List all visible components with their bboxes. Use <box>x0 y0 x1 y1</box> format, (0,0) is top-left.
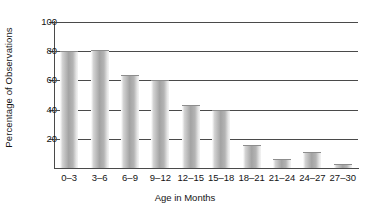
gridline <box>54 22 358 23</box>
bar <box>273 159 291 168</box>
x-axis-title: Age in Months <box>0 192 370 203</box>
bar <box>60 51 78 168</box>
bar <box>243 145 261 168</box>
bar-chart-figure: Percentage of Observations 20406080100 0… <box>0 0 370 215</box>
y-axis-title: Percentage of Observations <box>0 0 16 175</box>
bar <box>91 50 109 168</box>
bar <box>182 105 200 168</box>
bar <box>303 152 321 168</box>
y-axis-title-text: Percentage of Observations <box>3 27 14 147</box>
x-axis-line <box>54 168 359 169</box>
bar <box>151 80 169 168</box>
x-tick-label: 27–30 <box>323 173 363 183</box>
bar <box>212 110 230 168</box>
bar <box>334 164 352 168</box>
plot-area <box>54 22 358 168</box>
bar <box>121 75 139 168</box>
